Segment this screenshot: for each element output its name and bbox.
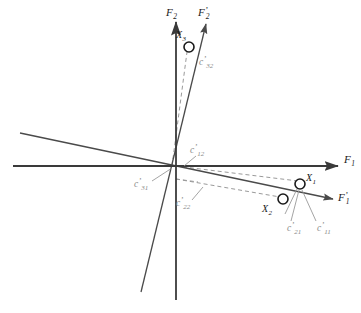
axis-label-f1-prime: F’1 [337,190,349,206]
coefficient-label-c21: c’21 [287,220,301,236]
point-label-x2-subscript: 2 [269,209,273,217]
coefficient-label-c11-subscript: 11 [324,228,330,236]
point-label-group: X1 X2 X3 [175,29,316,217]
variable-point-3-marker [184,42,194,52]
axis-label-f2-subscript: 2 [173,12,177,21]
diagram-canvas: F1 F2 F’1 F’2 X1 X2 X3 c’11 c’12 c’21 c’… [0,0,361,313]
reference-axis-group [13,22,338,300]
coefficient-label-c12: c’12 [190,142,205,158]
axis-label-group: F1 F2 F’1 F’2 [165,5,355,206]
point-label-x1: X1 [305,172,316,186]
point-label-x1-subscript: 1 [313,178,317,186]
axis-label-f2-prime: F’2 [197,5,210,21]
coefficient-label-group: c’11 c’12 c’21 c’22 c’31 c’32 [134,54,331,236]
variable-point-2-marker [278,194,288,204]
projection-line-group [172,52,298,197]
leader-line-c12 [184,156,196,166]
coefficient-label-c22: c’22 [176,195,191,211]
coefficient-label-c11: c’11 [317,220,331,236]
coefficient-label-c31-subscript: 31 [140,184,148,192]
axis-label-f1-subscript: 1 [351,159,355,168]
axis-label-f1-prime-subscript: 1 [346,197,350,206]
dashed-tick-x2-baseline [176,179,198,182]
oblique-factor-axis-2 [141,24,206,292]
axis-label-f2-prime-subscript: 2 [206,12,210,21]
axis-label-f2: F2 [165,6,177,21]
coefficient-label-c22-subscript: 22 [183,203,191,211]
factor-axes-diagram: F1 F2 F’1 F’2 X1 X2 X3 c’11 c’12 c’21 c’… [0,0,361,313]
variable-point-1-marker [295,179,305,189]
coefficient-label-c12-subscript: 12 [197,150,205,158]
axis-label-f1: F1 [343,153,355,168]
point-label-x2: X2 [261,203,273,217]
leader-line-c21 [291,190,299,221]
coefficient-label-c21-subscript: 21 [294,228,301,236]
dashed-projection-origin-to-x2 [176,179,280,197]
leader-line-c22 [192,187,203,200]
point-label-x3-subscript: 3 [182,35,187,43]
coefficient-label-c31: c’31 [134,176,148,192]
coefficient-label-c32-subscript: 32 [205,62,214,70]
coefficient-label-c32: c’32 [199,54,214,70]
